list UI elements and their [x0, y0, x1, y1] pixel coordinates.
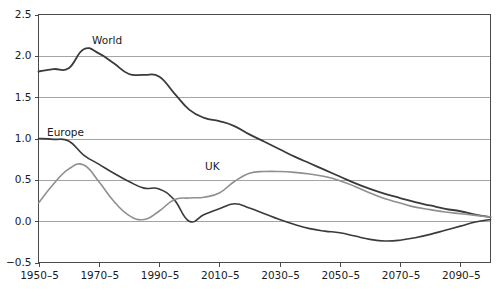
x-tick-label: 1970–5 — [80, 269, 119, 281]
x-axis-tick-labels: 1950–51970–51990–52010–52030–52050–52070… — [20, 269, 481, 281]
y-tick-label: 0.5 — [15, 173, 32, 185]
series-inline-labels: WorldEuropeUK — [47, 34, 221, 172]
data-series — [39, 48, 491, 241]
series-label-world: World — [92, 34, 122, 46]
line-chart: 2.52.01.51.00.50.0−0.5 1950–51970–51990–… — [0, 0, 501, 299]
series-line-europe — [39, 139, 491, 242]
y-tick-label: 0.0 — [15, 215, 32, 227]
chart-figure: 2.52.01.51.00.50.0−0.5 1950–51970–51990–… — [0, 0, 501, 299]
y-axis-tick-labels: 2.52.01.51.00.50.0−0.5 — [6, 8, 32, 268]
x-tick-label: 2010–5 — [201, 269, 240, 281]
series-label-europe: Europe — [47, 126, 84, 138]
gridlines — [39, 57, 491, 222]
y-tick-label: 2.5 — [15, 8, 32, 20]
x-tick-label: 1950–5 — [20, 269, 59, 281]
y-tick-label: 1.5 — [15, 91, 32, 103]
y-tick-label: 1.0 — [15, 132, 32, 144]
x-tick-label: 2070–5 — [382, 269, 421, 281]
x-tick-label: 2030–5 — [261, 269, 300, 281]
y-tick-label: −0.5 — [6, 256, 32, 268]
x-tick-label: 2050–5 — [322, 269, 361, 281]
x-tick-label: 2090–5 — [442, 269, 481, 281]
series-line-uk — [39, 164, 491, 220]
plot-frame — [39, 15, 491, 263]
x-tick-label: 1990–5 — [141, 269, 180, 281]
series-label-uk: UK — [205, 160, 221, 172]
y-tick-label: 2.0 — [15, 49, 32, 61]
